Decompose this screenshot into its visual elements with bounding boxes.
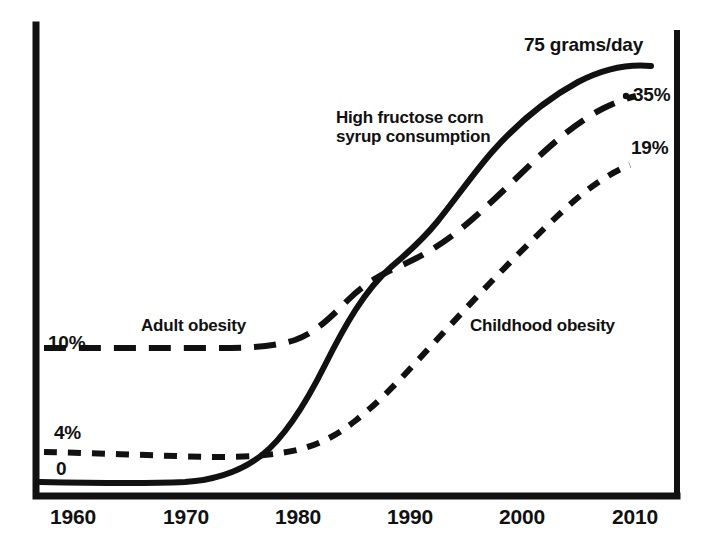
x-tick-1990: 1990 (387, 505, 433, 529)
x-tick-2010: 2010 (612, 505, 658, 529)
childhood-obesity-start-value: 4% (54, 422, 81, 444)
series-label-childhood-obesity: Childhood obesity (470, 316, 615, 335)
x-tick-1970: 1970 (163, 505, 209, 529)
childhood-obesity-end-value: 19% (631, 137, 668, 159)
hfcs-start-value: 0 (56, 458, 66, 480)
series-label-hfcs-line2: syrup consumption (336, 127, 490, 146)
adult-obesity-end-value: 35% (633, 84, 670, 106)
chart-canvas (0, 0, 707, 558)
x-tick-1980: 1980 (275, 505, 321, 529)
axis-frame-left-bottom (36, 25, 677, 496)
adult-end-dot-marker (623, 93, 629, 99)
hfcs-end-value: 75 grams/day (524, 34, 643, 56)
chart-container: 1960 1970 1980 1990 2000 2010 10% 4% 0 7… (0, 0, 707, 558)
x-tick-2000: 2000 (499, 505, 545, 529)
series-label-hfcs-line1: High fructose corn (336, 108, 490, 127)
series-label-adult-obesity: Adult obesity (141, 316, 246, 335)
series-label-hfcs: High fructose corn syrup consumption (336, 108, 490, 146)
x-tick-1960: 1960 (50, 505, 96, 529)
adult-obesity-start-value: 10% (48, 332, 85, 354)
series-line-childhood-obesity (44, 165, 630, 457)
